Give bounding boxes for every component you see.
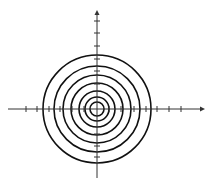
x-axis-arrow-icon [200, 107, 205, 112]
y-axis-arrow-icon [95, 10, 100, 15]
concentric-circles-diagram [0, 0, 212, 183]
